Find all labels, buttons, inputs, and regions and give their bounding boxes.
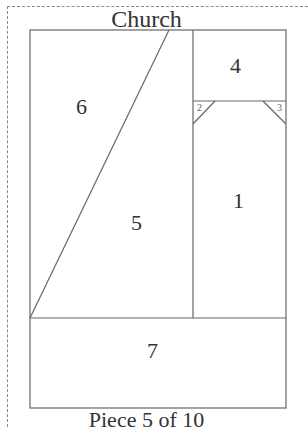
- piece-counter: Piece 5 of 10: [0, 409, 293, 431]
- piece-label-6: 6: [76, 96, 87, 118]
- piece-label-3: 3: [277, 103, 282, 113]
- block-title: Church: [0, 7, 293, 31]
- piece-label-5: 5: [131, 212, 142, 234]
- piece-label-7: 7: [147, 340, 158, 362]
- piece-label-1: 1: [233, 190, 244, 212]
- diagonal-divider: [30, 30, 169, 318]
- piece-label-2: 2: [197, 103, 202, 113]
- outer-block-outline: [30, 30, 286, 408]
- piece-label-4: 4: [230, 55, 241, 77]
- piece-3-edge: [263, 101, 286, 124]
